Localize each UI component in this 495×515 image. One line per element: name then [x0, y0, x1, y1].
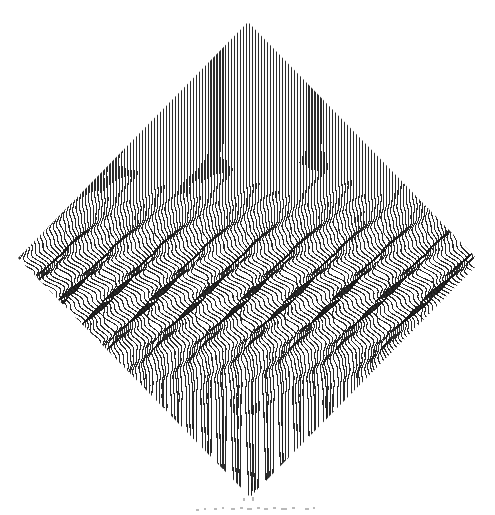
scan-speckle	[214, 508, 217, 510]
scan-speckle	[264, 508, 268, 510]
scan-speckle	[231, 508, 235, 510]
artwork-canvas	[0, 0, 495, 515]
scan-speckle	[204, 508, 206, 510]
scan-speckle	[257, 507, 260, 509]
moire-diamond-artwork	[0, 0, 495, 515]
scan-speckle	[247, 508, 252, 510]
scan-speckle	[273, 507, 276, 509]
scan-speckle	[243, 498, 245, 501]
scan-speckle	[292, 507, 295, 509]
scan-speckle	[281, 508, 287, 510]
scan-speckle	[313, 507, 315, 509]
scan-speckle	[222, 507, 224, 509]
scan-speckle	[305, 508, 309, 510]
scan-speckle	[252, 497, 254, 501]
scan-speckle	[240, 507, 243, 509]
scan-speckle	[196, 509, 199, 511]
